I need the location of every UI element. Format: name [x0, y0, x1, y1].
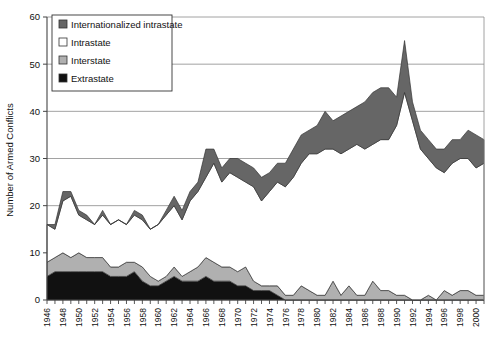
x-tick-label-1966: 1966 [201, 308, 211, 327]
x-tick-label-1970: 1970 [233, 308, 243, 327]
x-tick-label-1992: 1992 [408, 308, 418, 327]
x-tick-label-1972: 1972 [249, 308, 259, 327]
y-tick-label-60: 60 [29, 11, 40, 22]
y-tick-label-20: 20 [29, 200, 40, 211]
legend-label-extrastate: Extrastate [71, 73, 114, 84]
legend-swatch-intrastate [59, 38, 67, 46]
x-tick-label-1986: 1986 [360, 308, 370, 327]
x-tick-label-1998: 1998 [455, 308, 465, 327]
y-tick-label-30: 30 [29, 153, 40, 164]
legend-swatch-interstate [59, 56, 67, 64]
x-tick-label-1968: 1968 [217, 308, 227, 327]
x-tick-label-1974: 1974 [265, 308, 275, 327]
y-tick-label-40: 40 [29, 106, 40, 117]
x-tick-label-1956: 1956 [122, 308, 132, 327]
armed-conflicts-area-chart: 0102030405060 19461948195019521954195619… [0, 0, 493, 358]
x-tick-label-1952: 1952 [90, 308, 100, 327]
x-tick-label-1960: 1960 [153, 308, 163, 327]
x-tick-label-1980: 1980 [312, 308, 322, 327]
x-tick-label-1962: 1962 [169, 308, 179, 327]
x-tick-label-2000: 2000 [471, 308, 481, 327]
x-tick-label-1950: 1950 [74, 308, 84, 327]
y-tick-label-0: 0 [35, 294, 40, 305]
x-tick-label-1948: 1948 [58, 308, 68, 327]
x-tick-label-1964: 1964 [185, 308, 195, 327]
x-tick-label-1984: 1984 [344, 308, 354, 327]
x-tick-label-1990: 1990 [392, 308, 402, 327]
legend-swatch-extrastate [59, 74, 67, 82]
x-tick-label-1978: 1978 [296, 308, 306, 327]
y-tick-label-10: 10 [29, 247, 40, 258]
chart-legend: Internationalized intrastateIntrastateIn… [52, 15, 182, 91]
x-tick-label-1954: 1954 [106, 308, 116, 327]
x-tick-label-1976: 1976 [281, 308, 291, 327]
x-tick-label-1994: 1994 [424, 308, 434, 327]
x-tick-label-1982: 1982 [328, 308, 338, 327]
y-axis-label: Number of Armed Conflicts [4, 103, 15, 217]
chart-canvas: 0102030405060 19461948195019521954195619… [0, 0, 493, 358]
legend-label-interstate: Interstate [71, 55, 111, 66]
legend-label-intrastate: Intrastate [71, 37, 111, 48]
legend-swatch-internationalized-intrastate [59, 20, 67, 28]
x-tick-label-1988: 1988 [376, 308, 386, 327]
x-tick-label-1946: 1946 [42, 308, 52, 327]
legend-label-internationalized-intrastate: Internationalized intrastate [71, 19, 182, 30]
x-tick-label-1958: 1958 [138, 308, 148, 327]
x-tick-label-1996: 1996 [439, 308, 449, 327]
y-tick-label-50: 50 [29, 59, 40, 70]
